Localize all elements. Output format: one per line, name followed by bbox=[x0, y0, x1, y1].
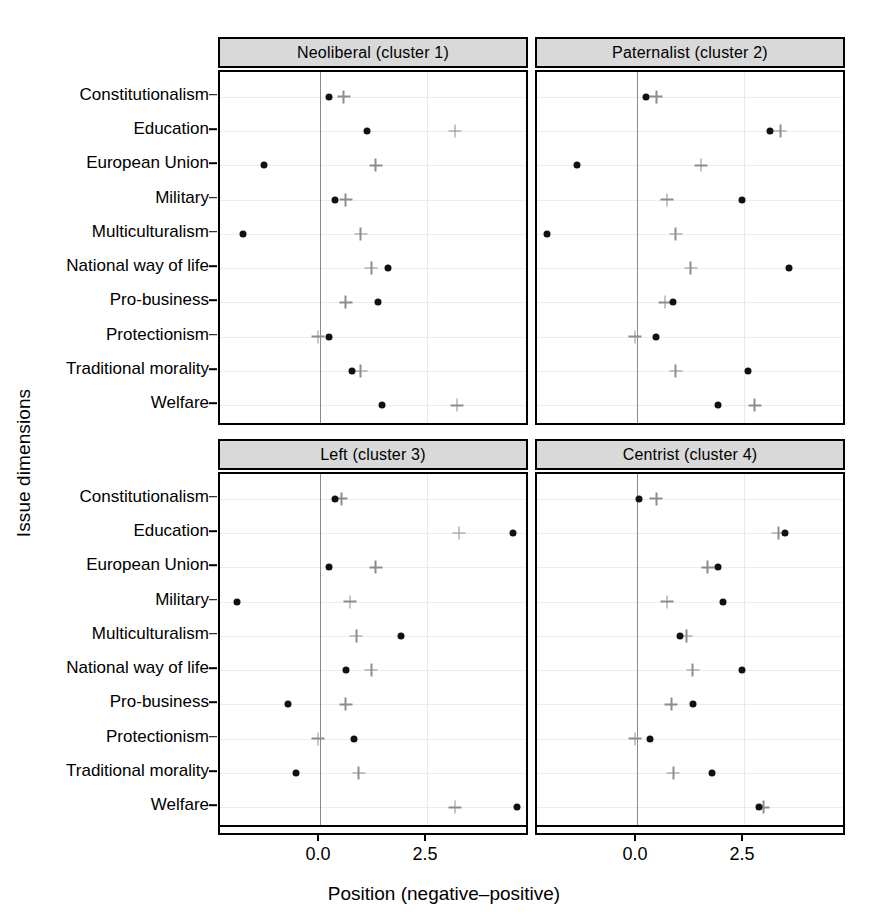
marker-dot bbox=[719, 598, 726, 605]
y-tick-label: National way of life bbox=[66, 256, 218, 276]
marker-plus bbox=[339, 193, 352, 206]
marker-dot bbox=[325, 93, 332, 100]
x-tick-label: 2.5 bbox=[729, 844, 754, 865]
marker-plus bbox=[365, 262, 378, 275]
x-axis-end-cap bbox=[218, 827, 220, 835]
y-tick-mark bbox=[209, 265, 217, 267]
marker-dot bbox=[325, 333, 332, 340]
y-tick-mark bbox=[209, 334, 217, 336]
gridline-horizontal bbox=[537, 371, 843, 372]
chart-root: Issue dimensions Position (negative–posi… bbox=[0, 0, 888, 919]
y-tick-mark bbox=[209, 231, 217, 233]
marker-dot bbox=[342, 667, 349, 674]
zero-reference-line bbox=[637, 72, 638, 423]
marker-dot bbox=[715, 564, 722, 571]
marker-plus bbox=[684, 262, 697, 275]
marker-plus bbox=[339, 698, 352, 711]
gridline-horizontal bbox=[537, 567, 843, 568]
marker-dot bbox=[331, 196, 338, 203]
gridline-horizontal bbox=[537, 602, 843, 603]
gridline-vertical bbox=[427, 72, 428, 423]
marker-plus bbox=[369, 159, 382, 172]
marker-dot bbox=[738, 667, 745, 674]
marker-dot bbox=[636, 495, 643, 502]
marker-dot bbox=[755, 804, 762, 811]
y-tick-mark bbox=[209, 667, 217, 669]
marker-dot bbox=[574, 162, 581, 169]
marker-plus bbox=[660, 193, 673, 206]
y-tick-label: Protectionism bbox=[106, 727, 218, 747]
marker-dot bbox=[738, 196, 745, 203]
y-tick-mark bbox=[209, 633, 217, 635]
marker-dot bbox=[689, 701, 696, 708]
gridline-horizontal bbox=[537, 302, 843, 303]
panel-4 bbox=[535, 472, 845, 827]
marker-dot bbox=[398, 632, 405, 639]
marker-dot bbox=[745, 368, 752, 375]
gridline-horizontal bbox=[220, 337, 526, 338]
marker-plus bbox=[354, 365, 367, 378]
x-tick-label: 0.0 bbox=[622, 844, 647, 865]
marker-plus bbox=[686, 664, 699, 677]
y-tick-mark bbox=[209, 805, 217, 807]
panel-3 bbox=[218, 472, 528, 827]
x-axis-end-cap bbox=[526, 827, 528, 835]
marker-dot bbox=[509, 529, 516, 536]
y-tick-label: National way of life bbox=[66, 658, 218, 678]
gridline-horizontal bbox=[537, 200, 843, 201]
marker-dot bbox=[766, 127, 773, 134]
marker-plus bbox=[669, 365, 682, 378]
marker-dot bbox=[233, 598, 240, 605]
marker-dot bbox=[642, 93, 649, 100]
y-tick-label: Constitutionalism bbox=[80, 85, 218, 105]
marker-dot bbox=[379, 402, 386, 409]
zero-reference-line bbox=[637, 474, 638, 825]
y-tick-label: Welfare bbox=[151, 795, 218, 815]
y-tick-mark bbox=[209, 403, 217, 405]
x-tick-mark bbox=[317, 833, 319, 841]
gridline-horizontal bbox=[537, 405, 843, 406]
x-tick-mark bbox=[741, 833, 743, 841]
marker-plus bbox=[343, 595, 356, 608]
marker-dot bbox=[646, 735, 653, 742]
y-tick-mark bbox=[209, 94, 217, 96]
marker-plus bbox=[628, 330, 641, 343]
gridline-horizontal bbox=[220, 739, 526, 740]
marker-plus bbox=[352, 767, 365, 780]
gridline-horizontal bbox=[537, 807, 843, 808]
y-tick-mark bbox=[209, 702, 217, 704]
marker-plus bbox=[748, 399, 761, 412]
marker-dot bbox=[239, 230, 246, 237]
panel-2 bbox=[535, 70, 845, 425]
gridline-horizontal bbox=[537, 739, 843, 740]
marker-dot bbox=[670, 299, 677, 306]
y-tick-label: Protectionism bbox=[106, 325, 218, 345]
y-tick-label: European Union bbox=[86, 153, 218, 173]
x-axis-title: Position (negative–positive) bbox=[0, 883, 888, 905]
marker-plus bbox=[695, 159, 708, 172]
gridline-horizontal bbox=[220, 499, 526, 500]
y-tick-label: Education bbox=[133, 521, 218, 541]
y-tick-mark bbox=[209, 770, 217, 772]
gridline-horizontal bbox=[537, 234, 843, 235]
y-tick-mark bbox=[209, 300, 217, 302]
y-tick-mark bbox=[209, 162, 217, 164]
gridline-horizontal bbox=[220, 602, 526, 603]
y-tick-mark bbox=[209, 736, 217, 738]
marker-plus bbox=[448, 124, 461, 137]
marker-plus bbox=[350, 629, 363, 642]
marker-plus bbox=[448, 801, 461, 814]
y-tick-mark bbox=[209, 368, 217, 370]
marker-plus bbox=[453, 526, 466, 539]
y-tick-label: Education bbox=[133, 119, 218, 139]
gridline-horizontal bbox=[220, 636, 526, 637]
marker-plus bbox=[628, 732, 641, 745]
gridline-horizontal bbox=[220, 97, 526, 98]
x-axis-end-cap bbox=[843, 827, 845, 835]
marker-plus bbox=[660, 595, 673, 608]
gridline-horizontal bbox=[220, 131, 526, 132]
zero-reference-line bbox=[320, 474, 321, 825]
y-tick-label: European Union bbox=[86, 555, 218, 575]
marker-dot bbox=[293, 770, 300, 777]
gridline-horizontal bbox=[537, 337, 843, 338]
